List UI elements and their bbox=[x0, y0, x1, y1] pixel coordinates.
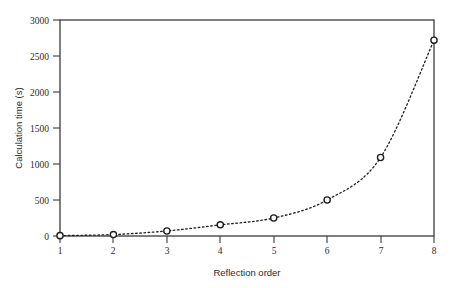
x-tick-label: 3 bbox=[165, 246, 170, 256]
x-tick-label: 8 bbox=[432, 246, 437, 256]
x-tick-label: 1 bbox=[58, 246, 63, 256]
y-tick-label: 500 bbox=[35, 196, 50, 206]
x-axis-tick-labels: 1 2 3 4 5 6 7 8 bbox=[58, 246, 437, 256]
chart-figure: 0 500 1000 1500 2000 2500 3000 1 2 3 4 5 bbox=[0, 0, 450, 288]
y-tick-label: 2000 bbox=[30, 88, 49, 98]
y-tick-label: 3000 bbox=[30, 16, 49, 26]
data-point-marker bbox=[431, 37, 437, 43]
calculation-time-scatter-chart: 0 500 1000 1500 2000 2500 3000 1 2 3 4 5 bbox=[0, 0, 450, 288]
x-tick-label: 5 bbox=[272, 246, 277, 256]
data-point-marker bbox=[271, 215, 277, 221]
plot-area-background bbox=[60, 20, 434, 236]
data-point-marker bbox=[164, 228, 170, 234]
data-point-marker bbox=[217, 222, 223, 228]
y-axis-ticks bbox=[53, 20, 60, 236]
x-tick-label: 2 bbox=[111, 246, 116, 256]
x-tick-label: 7 bbox=[379, 246, 384, 256]
x-tick-label: 6 bbox=[325, 246, 330, 256]
y-axis-tick-labels: 0 500 1000 1500 2000 2500 3000 bbox=[30, 16, 49, 242]
y-tick-label: 2500 bbox=[30, 52, 49, 62]
data-point-marker bbox=[377, 154, 383, 160]
data-point-marker bbox=[57, 233, 63, 239]
y-axis-title: Calculation time (s) bbox=[13, 87, 24, 168]
y-tick-label: 1000 bbox=[30, 160, 49, 170]
x-tick-label: 4 bbox=[218, 246, 223, 256]
data-point-marker bbox=[110, 231, 116, 237]
x-axis-title: Reflection order bbox=[213, 267, 280, 278]
y-tick-label: 0 bbox=[44, 232, 49, 242]
data-point-marker bbox=[324, 197, 330, 203]
y-tick-label: 1500 bbox=[30, 124, 49, 134]
